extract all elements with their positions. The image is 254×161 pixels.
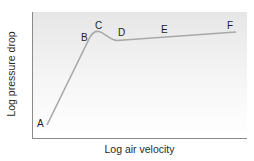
point-label-f: F [227, 21, 233, 31]
point-label-e: E [161, 25, 168, 35]
point-label-c: C [95, 21, 102, 31]
plot-area [32, 12, 247, 138]
point-label-b: B [81, 33, 88, 43]
y-axis-label: Log pressure drop [3, 20, 19, 128]
chart-canvas [0, 0, 254, 161]
x-axis-label: Log air velocity [32, 143, 247, 155]
point-label-a: A [37, 119, 44, 129]
y-axis-label-text: Log pressure drop [5, 31, 17, 116]
point-label-d: D [118, 28, 125, 38]
